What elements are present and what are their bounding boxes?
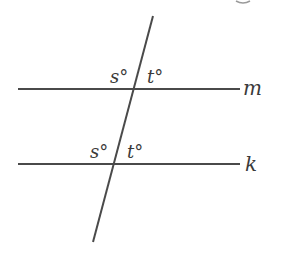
line-k-label: k	[245, 152, 257, 176]
line-m-label: m	[243, 76, 262, 100]
cropped-glyph	[236, 1, 250, 3]
angle-label-t-at-m: t°	[147, 66, 163, 87]
angle-label-s-at-k: s°	[90, 141, 108, 162]
angle-label-s-at-m: s°	[110, 66, 128, 87]
diagram-canvas: m k s° t° s° t°	[0, 0, 283, 254]
angle-label-t-at-k: t°	[127, 141, 143, 162]
transversal-line	[93, 16, 153, 242]
